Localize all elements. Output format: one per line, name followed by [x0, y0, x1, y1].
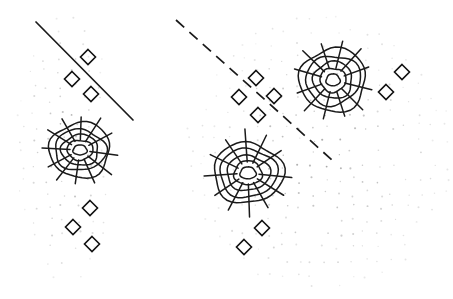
data-point: [231, 230, 233, 232]
data-point: [282, 88, 284, 90]
data-point: [99, 72, 101, 74]
data-point: [448, 179, 450, 181]
data-point: [378, 70, 379, 71]
data-point: [309, 261, 311, 263]
data-point: [295, 231, 297, 233]
data-point: [298, 192, 300, 194]
data-point: [381, 272, 383, 274]
data-point: [24, 209, 26, 211]
data-point: [377, 110, 379, 112]
data-point: [340, 235, 342, 237]
data-point: [268, 68, 270, 70]
data-point: [323, 261, 325, 263]
data-point: [269, 125, 271, 127]
highlighted-point-marker: [84, 87, 99, 102]
data-point: [272, 140, 274, 142]
data-point: [419, 114, 421, 116]
data-point: [282, 167, 284, 169]
data-point: [418, 123, 419, 124]
data-point: [241, 204, 242, 205]
data-point: [381, 43, 383, 45]
data-point: [218, 207, 220, 209]
data-point: [203, 177, 204, 178]
data-point: [203, 156, 204, 157]
density-cluster-group: [42, 41, 372, 217]
data-point: [82, 43, 84, 45]
data-point: [282, 113, 284, 115]
highlighted-point-marker: [83, 201, 98, 216]
data-point: [61, 181, 62, 182]
data-point: [62, 111, 64, 113]
data-point: [214, 152, 216, 154]
highlighted-point-marker: [251, 108, 266, 123]
data-point: [341, 220, 343, 222]
data-point: [61, 232, 63, 234]
highlighted-point-marker: [267, 89, 282, 104]
data-point: [20, 149, 22, 151]
data-point: [309, 18, 311, 20]
data-point: [362, 245, 363, 246]
density-contour-ring: [73, 145, 88, 155]
data-point: [327, 232, 329, 234]
data-point: [362, 181, 364, 183]
data-point: [49, 244, 51, 246]
data-point: [33, 222, 34, 223]
data-point: [88, 56, 90, 58]
data-point: [351, 196, 353, 198]
data-point: [335, 248, 337, 250]
data-point: [255, 204, 256, 205]
data-point: [389, 194, 390, 195]
data-point: [216, 95, 218, 97]
data-point: [30, 71, 31, 72]
data-point: [364, 277, 366, 279]
data-point: [204, 194, 206, 196]
data-point: [33, 139, 35, 141]
data-point: [352, 218, 354, 220]
data-point: [312, 195, 314, 197]
data-point: [339, 139, 341, 141]
data-point: [430, 178, 432, 180]
data-point: [255, 233, 257, 235]
cluster-spoke: [259, 174, 292, 177]
data-point: [23, 126, 25, 128]
data-point: [88, 126, 89, 127]
left-cluster: [42, 117, 118, 184]
data-point: [31, 112, 32, 113]
data-point: [44, 87, 46, 89]
data-point: [72, 17, 74, 19]
highlighted-point-marker: [232, 90, 247, 105]
data-point: [229, 244, 231, 246]
data-point: [326, 125, 328, 127]
data-point: [60, 123, 62, 125]
cluster-spoke: [75, 160, 78, 184]
data-point: [202, 136, 204, 138]
data-point: [353, 276, 354, 277]
data-point: [435, 110, 436, 111]
data-point: [350, 29, 351, 30]
data-point: [393, 45, 394, 46]
data-point: [312, 205, 314, 207]
data-point: [339, 285, 340, 286]
data-point: [326, 166, 328, 168]
data-point: [296, 164, 298, 166]
data-point: [213, 137, 214, 138]
data-point: [431, 209, 433, 211]
data-point: [445, 190, 447, 192]
data-point: [103, 222, 105, 224]
highlighted-point-marker: [379, 85, 394, 100]
data-point: [88, 70, 90, 72]
data-point: [269, 87, 271, 89]
data-point: [45, 181, 47, 183]
data-point: [391, 57, 393, 59]
data-point: [98, 87, 100, 89]
data-point: [229, 136, 230, 137]
data-point: [349, 167, 351, 169]
data-point: [408, 205, 409, 206]
data-point: [377, 125, 379, 127]
data-point: [338, 193, 340, 195]
data-point: [310, 32, 311, 33]
data-point: [259, 115, 261, 117]
data-point: [33, 182, 35, 184]
data-point: [258, 248, 259, 249]
data-point: [349, 114, 351, 116]
